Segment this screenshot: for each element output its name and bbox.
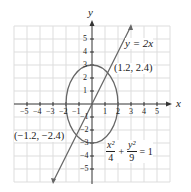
intersection-point-label: (−1.2, −2.4) <box>14 131 64 142</box>
y-tick-label: −5 <box>80 165 89 173</box>
y-tick-label: 1 <box>83 87 87 95</box>
y-axis-arrow-icon <box>90 20 95 26</box>
y-tick-label: −4 <box>80 152 89 160</box>
x-axis-arrow-icon <box>166 102 172 107</box>
y-tick-label: 2 <box>83 74 87 82</box>
y-tick-label: −1 <box>80 113 89 121</box>
line-arrow-icon <box>128 24 133 30</box>
y-tick-label: 3 <box>83 61 87 69</box>
intersection-point-label: (1.2, 2.4) <box>114 63 153 74</box>
x-tick-label: −3 <box>46 108 55 116</box>
y-tick-label: 5 <box>83 35 87 43</box>
line-arrow-bottom-icon <box>51 178 56 184</box>
x-tick-label: 5 <box>155 108 159 116</box>
y-axis-label: y <box>88 7 93 18</box>
y-tick-label: 4 <box>83 48 87 56</box>
fraction-y: y² 9 <box>127 140 136 163</box>
fraction-x: x² 4 <box>106 140 115 163</box>
ellipse-equation: x² 4 + y² 9 = 1 <box>106 140 153 163</box>
x-tick-label: 2 <box>116 108 120 116</box>
x-tick-label: 1 <box>103 108 107 116</box>
x-tick-label: −4 <box>33 108 42 116</box>
x-axis-label: x <box>176 98 181 109</box>
x-tick-label: −2 <box>59 108 68 116</box>
y-tick-label: −2 <box>80 126 89 134</box>
x-tick-label: 4 <box>142 108 146 116</box>
y-tick-label: −3 <box>80 139 89 147</box>
graph-canvas <box>0 0 191 192</box>
x-tick-label: −5 <box>20 108 29 116</box>
x-tick-label: 3 <box>129 108 133 116</box>
line-equation-label: y = 2x <box>125 38 153 49</box>
